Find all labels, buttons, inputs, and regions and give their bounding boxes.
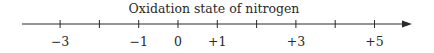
tick-label: −1 [129,34,147,49]
tick-label: +5 [365,34,383,49]
oxidation-number-line: Oxidation state of nitrogen −3−10+1+3+5 [0,0,434,53]
arrow-head-icon [402,21,412,28]
tick-label: −3 [51,34,69,49]
tick-label: +3 [287,34,305,49]
tick-label: +1 [208,34,226,49]
tick-label: 0 [174,34,182,49]
axis-title: Oxidation state of nitrogen [129,1,300,16]
